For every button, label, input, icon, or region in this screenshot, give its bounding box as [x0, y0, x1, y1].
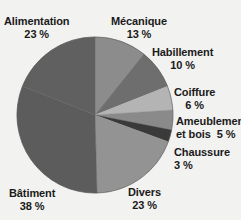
pie-slice-group	[17, 37, 173, 193]
pie-label-ameublement: Ameublement et bois 5 %	[176, 115, 241, 140]
pie-label-ameublement-line2-text: et bois	[176, 128, 211, 140]
pie-label-batiment-value: 38 %	[9, 200, 55, 213]
pie-chart: Alimentation 23 % Mécanique 13 % Habille…	[0, 0, 241, 220]
pie-label-habillement-value: 10 %	[152, 59, 213, 72]
pie-label-mecanique-value: 13 %	[111, 28, 167, 41]
pie-label-ameublement-value: 5 %	[217, 128, 236, 140]
pie-label-ameublement-line2: et bois 5 %	[176, 128, 241, 141]
pie-label-coiffure-value: 6 %	[174, 99, 215, 112]
pie-label-alimentation: Alimentation 23 %	[4, 15, 69, 40]
pie-label-divers-name: Divers	[128, 186, 161, 198]
pie-label-coiffure-name: Coiffure	[174, 86, 215, 98]
pie-label-coiffure: Coiffure 6 %	[174, 86, 215, 111]
pie-label-ameublement-name: Ameublement	[176, 115, 241, 127]
pie-label-chaussure-value: 3 %	[174, 159, 230, 172]
pie-label-batiment-name: Bâtiment	[9, 187, 55, 199]
pie-label-mecanique-name: Mécanique	[111, 15, 167, 27]
pie-label-habillement: Habillement 10 %	[152, 46, 213, 71]
pie-label-habillement-name: Habillement	[152, 46, 213, 58]
pie-label-alimentation-value: 23 %	[4, 28, 69, 41]
pie-label-batiment: Bâtiment 38 %	[9, 187, 55, 212]
pie-label-chaussure: Chaussure 3 %	[174, 146, 230, 171]
pie-label-mecanique: Mécanique 13 %	[111, 15, 167, 40]
pie-label-alimentation-name: Alimentation	[4, 15, 69, 27]
pie-label-chaussure-name: Chaussure	[174, 146, 230, 158]
pie-label-divers: Divers 23 %	[128, 186, 161, 211]
pie-label-divers-value: 23 %	[128, 199, 161, 212]
